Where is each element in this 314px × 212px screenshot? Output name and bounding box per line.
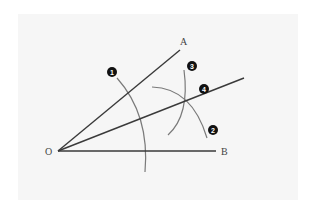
- svg-text:2: 2: [211, 127, 215, 134]
- step-badge-4: 4: [199, 84, 209, 94]
- arc-step-2: [152, 87, 207, 138]
- point-label-B: B: [221, 146, 228, 157]
- bisector-ray: [58, 78, 244, 151]
- point-label-O: O: [45, 146, 52, 157]
- arc-step-1: [117, 78, 146, 172]
- step-badge-3: 3: [187, 61, 197, 71]
- svg-text:1: 1: [110, 69, 114, 76]
- svg-text:3: 3: [190, 63, 194, 70]
- point-label-A: A: [180, 36, 188, 47]
- step-badge-2: 2: [208, 125, 218, 135]
- svg-text:4: 4: [202, 86, 206, 93]
- ray-OA: [58, 50, 180, 151]
- step-badge-1: 1: [107, 67, 117, 77]
- angle-bisection-diagram: O A B 1 2 3 4: [0, 0, 314, 212]
